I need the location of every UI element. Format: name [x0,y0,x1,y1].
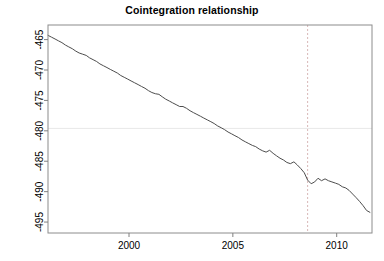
x-tick-label: 2000 [118,240,141,251]
y-tick-label: -485 [35,151,46,171]
x-tick-label: 2010 [326,240,349,251]
data-series-group [48,35,370,212]
chart-title: Cointegration relationship [0,4,384,16]
y-tick-label: -475 [35,90,46,110]
reference-lines [48,25,372,233]
line-series-cointegration-residual [48,35,370,212]
y-tick-label: -480 [35,120,46,140]
y-tick-label: -465 [35,29,46,49]
plot-frame [48,25,372,233]
chart-figure: Cointegration relationship 200020052010 … [0,0,384,261]
y-tick-label: -470 [34,60,45,80]
y-axis-ticks: -495-490-485-480-475-470-465 [34,29,48,232]
x-axis-ticks: 200020052010 [118,233,348,251]
chart-plot-area: 200020052010 -495-490-485-480-475-470-46… [0,0,384,261]
x-tick-label: 2005 [222,240,245,251]
y-tick-label: -490 [35,181,46,201]
y-tick-label: -495 [35,212,46,232]
